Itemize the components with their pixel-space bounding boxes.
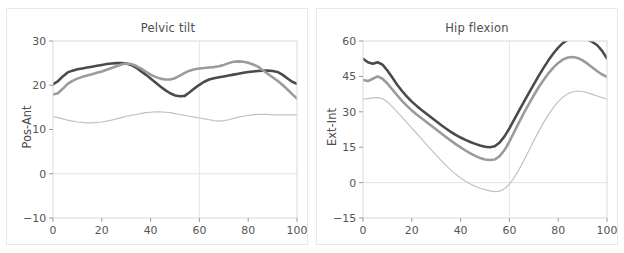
y-tick-label: −10 <box>23 212 46 225</box>
figure-footer-strip <box>0 248 624 253</box>
y-tick-label: 30 <box>32 35 46 48</box>
line-chart-hip-flexion: −15015304560020406080100 <box>363 41 607 218</box>
x-tick-label: 60 <box>192 224 206 237</box>
series-line-mid <box>363 57 607 160</box>
y-tick-label: 0 <box>349 177 356 190</box>
y-tick-label: 10 <box>32 123 46 136</box>
x-tick-label: 20 <box>95 224 109 237</box>
x-tick-label: 60 <box>502 224 516 237</box>
plot-area-right: −15015304560020406080100 <box>363 41 607 218</box>
chart-panel-pelvic-tilt: Pelvic tilt Pos-Ant −1001020300204060801… <box>6 8 308 245</box>
chart-title-left: Pelvic tilt <box>7 21 307 35</box>
series-line-light <box>363 91 607 192</box>
chart-title-right: Hip flexion <box>317 21 617 35</box>
line-chart-pelvic-tilt: −100102030020406080100 <box>53 41 297 218</box>
x-tick-label: 100 <box>597 224 618 237</box>
y-tick-label: −15 <box>333 212 356 225</box>
y-tick-label: 30 <box>342 106 356 119</box>
x-tick-label: 80 <box>551 224 565 237</box>
figure-canvas: Pelvic tilt Pos-Ant −1001020300204060801… <box>0 0 624 253</box>
x-tick-label: 80 <box>241 224 255 237</box>
y-tick-label: 45 <box>342 70 356 83</box>
y-axis-label-right: Ext-Int <box>325 108 339 146</box>
y-tick-label: 20 <box>32 79 46 92</box>
y-tick-label: 60 <box>342 35 356 48</box>
chart-panel-hip-flexion: Hip flexion Ext-Int −1501530456002040608… <box>316 8 618 245</box>
x-tick-label: 20 <box>405 224 419 237</box>
x-tick-label: 100 <box>287 224 308 237</box>
x-tick-label: 40 <box>454 224 468 237</box>
y-tick-label: 15 <box>342 141 356 154</box>
x-tick-label: 0 <box>50 224 57 237</box>
x-tick-label: 0 <box>360 224 367 237</box>
x-tick-label: 40 <box>144 224 158 237</box>
plot-area-left: −100102030020406080100 <box>53 41 297 218</box>
plot-frame <box>363 41 607 218</box>
y-tick-label: 0 <box>39 168 46 181</box>
series-line-light <box>53 112 297 123</box>
